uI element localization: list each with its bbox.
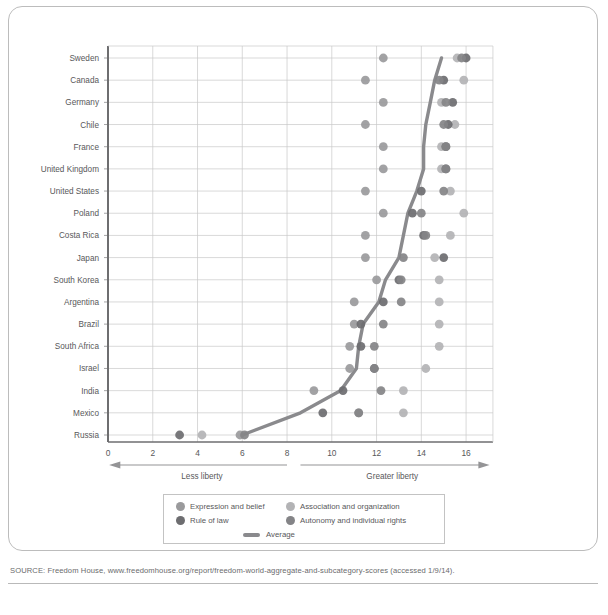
data-point (339, 386, 348, 395)
category-labels-group: SwedenCanadaGermanyChileFranceUnited Kin… (41, 54, 108, 440)
data-point (442, 142, 451, 151)
data-point (408, 209, 417, 218)
data-point (198, 431, 207, 440)
data-point (370, 364, 379, 373)
category-label: Chile (80, 121, 99, 130)
x-tick-label: 4 (195, 448, 200, 458)
data-point (318, 408, 327, 417)
data-point (399, 386, 408, 395)
data-point (442, 98, 451, 107)
data-point (379, 142, 388, 151)
data-point (459, 76, 468, 85)
x-tick-label: 10 (327, 448, 337, 458)
legend-item-autonomy-and-individual-rights: Autonomy and individual rights (286, 516, 406, 525)
category-label: Argentina (64, 298, 99, 307)
greater-liberty-arrowhead (478, 462, 489, 469)
data-point (430, 253, 439, 262)
average-line-group (242, 58, 441, 435)
legend-swatch-expression-and-belief (176, 502, 185, 511)
data-point (417, 187, 426, 196)
data-point (372, 275, 381, 284)
data-point (421, 231, 430, 240)
axes-group (108, 46, 493, 442)
category-label: South Africa (55, 342, 100, 351)
data-point (442, 165, 451, 174)
data-point (310, 386, 319, 395)
data-point (361, 120, 370, 129)
legend-swatch-rule-of-law (176, 516, 185, 525)
data-point (361, 253, 370, 262)
category-label: Mexico (73, 409, 99, 418)
data-point (439, 120, 448, 129)
category-label: United Kingdom (41, 165, 99, 174)
category-label: Sweden (69, 54, 99, 63)
category-label: Brazil (79, 320, 100, 329)
greater-liberty-label: Greater liberty (366, 472, 419, 481)
data-point (377, 386, 386, 395)
category-label: Canada (70, 76, 99, 85)
data-point (459, 209, 468, 218)
data-point (379, 209, 388, 218)
category-label: Russia (74, 431, 99, 440)
data-point (370, 342, 379, 351)
category-label: France (74, 143, 100, 152)
legend: Expression and belief Association and or… (163, 494, 445, 544)
legend-item-association-and-organization: Association and organization (286, 502, 400, 511)
category-label: Germany (65, 98, 100, 107)
data-point (397, 298, 406, 307)
data-point (361, 76, 370, 85)
data-point (397, 275, 406, 284)
legend-label-autonomy-and-individual-rights: Autonomy and individual rights (300, 516, 406, 525)
source-note: SOURCE: Freedom House, www.freedomhouse.… (10, 566, 600, 575)
average-line (242, 58, 441, 435)
category-label: Costa Rica (59, 231, 99, 240)
data-point (345, 342, 354, 351)
data-point (435, 342, 444, 351)
data-point (361, 231, 370, 240)
legend-swatch-autonomy-and-individual-rights (286, 516, 295, 525)
data-point (435, 320, 444, 329)
data-point (417, 209, 426, 218)
data-point (439, 187, 448, 196)
data-point (435, 76, 444, 85)
legend-label-average: Average (266, 530, 295, 539)
less-liberty-label: Less liberty (181, 472, 223, 481)
data-point (379, 54, 388, 63)
source-divider (8, 583, 598, 584)
data-point (345, 364, 354, 373)
x-tick-label: 8 (285, 448, 290, 458)
data-point (361, 187, 370, 196)
legend-label-association-and-organization: Association and organization (300, 502, 400, 511)
x-tick-label: 12 (372, 448, 382, 458)
data-point (354, 408, 363, 417)
legend-label-rule-of-law: Rule of law (190, 516, 229, 525)
x-tick-label: 0 (106, 448, 111, 458)
legend-item-rule-of-law: Rule of law (176, 516, 229, 525)
data-point (457, 54, 466, 63)
category-label: India (81, 387, 99, 396)
data-point (399, 253, 408, 262)
data-point (357, 320, 366, 329)
category-label: Israel (79, 364, 99, 373)
legend-label-expression-and-belief: Expression and belief (190, 502, 265, 511)
data-point (379, 165, 388, 174)
data-points-group (175, 54, 470, 440)
data-point (446, 231, 455, 240)
legend-item-expression-and-belief: Expression and belief (176, 502, 265, 511)
data-point (435, 275, 444, 284)
category-label: United States (50, 187, 99, 196)
data-point (439, 253, 448, 262)
legend-swatch-association-and-organization (286, 502, 295, 511)
x-tick-label: 14 (417, 448, 427, 458)
x-tick-label: 2 (150, 448, 155, 458)
data-point (357, 342, 366, 351)
data-point (379, 98, 388, 107)
less-liberty-arrowhead (109, 462, 120, 469)
data-point (379, 298, 388, 307)
legend-item-average: Average (243, 530, 295, 539)
data-point (350, 298, 359, 307)
x-axis-group: 0246810121416Less libertyGreater liberty (106, 448, 490, 481)
category-label: South Korea (53, 276, 99, 285)
chart-page: SwedenCanadaGermanyChileFranceUnited Kin… (0, 0, 608, 615)
data-point (421, 364, 430, 373)
